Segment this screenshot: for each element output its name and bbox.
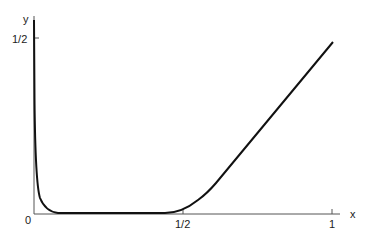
chart: y 1/2 0 1/2 1 x [0, 0, 376, 242]
x-tick-label-one: 1 [329, 218, 335, 230]
y-tick-label-half: 1/2 [12, 33, 27, 45]
origin-label: 0 [25, 214, 31, 226]
y-axis-label: y [23, 13, 29, 25]
x-axis-label: x [350, 208, 356, 220]
x-tick-label-half: 1/2 [175, 218, 190, 230]
curve-line [34, 20, 333, 213]
